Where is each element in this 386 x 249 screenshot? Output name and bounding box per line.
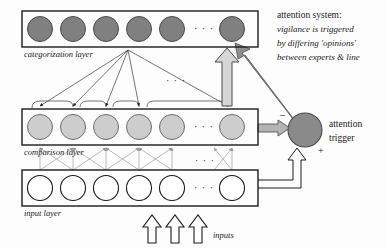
node-categorization-2[interactable] — [61, 17, 86, 42]
node-comparison-4[interactable] — [127, 115, 152, 140]
node-input-3[interactable] — [94, 176, 119, 201]
comparison-to-categorization-arrow — [215, 48, 239, 106]
annotation-line-2: vigilance is triggered — [277, 24, 354, 34]
input-arrows — [143, 215, 207, 243]
node-categorization-4[interactable] — [127, 17, 152, 42]
layer-comparison: · · · comparison layer — [22, 109, 258, 157]
input-arrow-2 — [166, 215, 184, 243]
inputs-label: inputs — [213, 230, 234, 240]
art-network-diagram: · · · · · · — [0, 0, 386, 249]
ellipsis-categorization: · · · — [194, 23, 214, 34]
ellipsis-input: · · · — [194, 182, 214, 193]
input-to-trigger-connector — [258, 148, 306, 188]
node-input-6[interactable] — [220, 176, 245, 201]
input-arrow-3 — [189, 215, 207, 243]
node-comparison-3[interactable] — [94, 115, 119, 140]
attention-trigger-label-line1: attention — [329, 119, 362, 129]
node-input-2[interactable] — [61, 176, 86, 201]
categorization-layer-label: categorization layer — [24, 49, 93, 59]
node-categorization-5[interactable] — [160, 17, 185, 42]
node-input-1[interactable] — [28, 176, 53, 201]
input-layer-label: input layer — [24, 208, 62, 218]
node-comparison-2[interactable] — [61, 115, 86, 140]
ellipsis-input-comparison: · · · — [195, 155, 215, 166]
node-categorization-6[interactable] — [220, 17, 245, 42]
node-categorization-1[interactable] — [28, 17, 53, 42]
node-comparison-1[interactable] — [28, 115, 53, 140]
node-comparison-6[interactable] — [220, 115, 245, 140]
annotation-line-4: between experts & line — [277, 52, 360, 62]
attention-trigger-label-line2: trigger — [329, 133, 355, 143]
node-categorization-3[interactable] — [94, 17, 119, 42]
ellipsis-fan-region: · · · — [166, 75, 186, 86]
comparison-layer-label: comparison layer — [24, 147, 84, 157]
annotation-line-3: by differing 'opinions' — [277, 38, 357, 48]
layer-categorization: · · · categorization layer — [22, 11, 258, 59]
diagram-canvas: · · · · · · — [0, 0, 386, 249]
minus-sign-label: – — [279, 109, 286, 120]
annotation-line-1: attention system: — [277, 10, 342, 20]
input-arrow-1 — [143, 215, 161, 243]
node-input-4[interactable] — [127, 176, 152, 201]
attention-trigger-node[interactable] — [288, 113, 322, 147]
layer-input: · · · input layer — [22, 170, 258, 218]
comparison-to-trigger-arrow — [258, 120, 290, 136]
attention-system-annotation: attention system: vigilance is triggered… — [277, 10, 360, 62]
node-input-5[interactable] — [160, 176, 185, 201]
node-comparison-5[interactable] — [160, 115, 185, 140]
ellipsis-comparison: · · · — [194, 121, 214, 132]
plus-sign-label: + — [318, 145, 324, 156]
